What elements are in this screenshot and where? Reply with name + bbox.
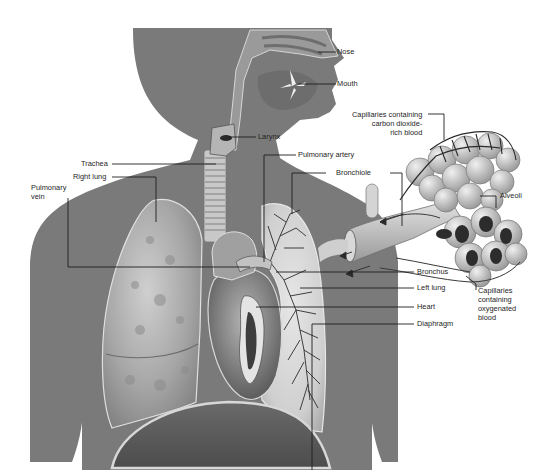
label-right-lung: Right lung <box>73 172 106 181</box>
label-pulmonary-artery: Pulmonary artery <box>298 150 354 159</box>
label-heart: Heart <box>417 302 435 311</box>
label-capillaries-co2: Capillaries containing carbon dioxide- r… <box>352 110 422 137</box>
label-pulmonary-vein: Pulmonary vein <box>31 183 66 201</box>
label-larynx: Larynx <box>258 132 280 141</box>
alveoli-cluster-upper <box>406 133 520 212</box>
label-diaphragm: Diaphragm <box>417 319 453 328</box>
label-bronchus: Bronchus <box>417 267 448 276</box>
label-mouth: Mouth <box>337 79 358 88</box>
respiratory-system-illustration <box>0 0 548 476</box>
label-trachea: Trachea <box>81 159 108 168</box>
larynx-opening <box>220 135 232 141</box>
label-nose: Nose <box>337 47 354 56</box>
label-bronchiole: Bronchiole <box>336 168 371 177</box>
label-left-lung: Left lung <box>417 283 445 292</box>
bronchiole-branch <box>366 184 378 218</box>
leader-capillaries-co2 <box>428 114 444 140</box>
label-capillaries-o2: Capillaries containing oxygenated blood <box>478 286 516 322</box>
label-alveoli: Alveoli <box>500 191 522 200</box>
